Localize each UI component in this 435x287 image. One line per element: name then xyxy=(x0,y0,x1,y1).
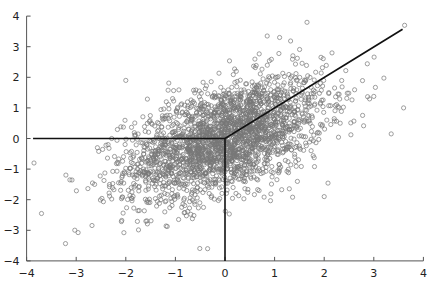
data-point xyxy=(237,194,241,198)
data-point xyxy=(163,210,167,214)
data-point xyxy=(134,143,138,147)
data-point xyxy=(344,69,348,73)
data-point xyxy=(187,206,191,210)
data-point xyxy=(217,71,221,75)
y-tick-label: 2 xyxy=(13,71,20,84)
data-point xyxy=(280,188,284,192)
data-point xyxy=(291,195,295,199)
data-point xyxy=(172,89,176,93)
data-point xyxy=(373,85,377,89)
data-point xyxy=(286,160,290,164)
data-point xyxy=(257,189,261,193)
data-point xyxy=(261,77,265,81)
data-point xyxy=(320,66,324,70)
data-point xyxy=(103,171,107,175)
data-point xyxy=(231,185,235,189)
data-point xyxy=(158,182,162,186)
data-point xyxy=(262,195,266,199)
data-point xyxy=(294,114,298,118)
data-point xyxy=(129,125,133,129)
data-point xyxy=(287,187,291,191)
x-tick-label: 0 xyxy=(222,267,229,280)
data-point xyxy=(130,190,134,194)
data-point xyxy=(111,169,115,173)
data-point xyxy=(295,56,299,60)
data-point xyxy=(341,105,345,109)
data-point xyxy=(317,137,321,141)
data-point xyxy=(403,23,407,27)
data-point xyxy=(299,164,303,168)
data-point xyxy=(115,169,119,173)
data-point xyxy=(336,135,340,139)
data-point xyxy=(121,211,125,215)
data-point xyxy=(136,228,140,232)
data-point xyxy=(330,51,334,55)
x-tick-label: 3 xyxy=(370,267,377,280)
data-point xyxy=(124,78,128,82)
data-point xyxy=(322,110,326,114)
data-point xyxy=(172,115,176,119)
data-point xyxy=(338,121,342,125)
data-point xyxy=(119,188,123,192)
data-point xyxy=(257,52,261,56)
data-point xyxy=(382,76,386,80)
data-point xyxy=(310,125,314,129)
data-point xyxy=(361,113,365,117)
data-point xyxy=(230,196,234,200)
scatter-chart: −4−3−2−101234 −4−3−2−101234 xyxy=(0,0,435,287)
data-point xyxy=(220,191,224,195)
data-point xyxy=(265,34,269,38)
data-point xyxy=(177,114,181,118)
data-point xyxy=(86,187,90,191)
data-point xyxy=(204,84,208,88)
data-point xyxy=(123,118,127,122)
data-point xyxy=(309,129,313,133)
data-point xyxy=(39,211,43,215)
data-point xyxy=(159,108,163,112)
y-tick-label: 0 xyxy=(13,133,20,146)
data-point xyxy=(333,109,337,113)
data-point xyxy=(149,219,153,223)
data-point xyxy=(185,100,189,104)
data-point xyxy=(156,129,160,133)
data-point xyxy=(270,164,274,168)
x-tick-label: 2 xyxy=(321,267,328,280)
data-point xyxy=(110,197,114,201)
data-point xyxy=(156,120,160,124)
x-axis-ticks: −4−3−2−101234 xyxy=(18,257,426,280)
data-point xyxy=(360,79,364,83)
y-tick-label: −4 xyxy=(3,255,19,268)
data-point xyxy=(206,247,210,251)
data-point xyxy=(277,51,281,55)
data-point xyxy=(322,195,326,199)
data-point xyxy=(201,80,205,84)
x-tick-label: 1 xyxy=(271,267,278,280)
data-point xyxy=(125,206,129,210)
data-point xyxy=(133,121,137,125)
data-point xyxy=(64,173,68,177)
data-point xyxy=(340,78,344,82)
data-point xyxy=(269,192,273,196)
data-point xyxy=(309,149,313,153)
data-point xyxy=(253,57,257,61)
data-point xyxy=(121,155,125,159)
data-point xyxy=(276,75,280,79)
data-point xyxy=(234,191,238,195)
data-point xyxy=(389,132,393,136)
data-point xyxy=(246,187,250,191)
data-point xyxy=(142,209,146,213)
data-point xyxy=(105,156,109,160)
x-tick-label: −1 xyxy=(167,267,183,280)
data-point xyxy=(315,84,319,88)
data-point xyxy=(321,105,325,109)
data-point xyxy=(121,125,125,129)
data-point xyxy=(305,20,309,24)
data-point xyxy=(294,72,298,76)
scatter-points xyxy=(32,20,407,251)
data-point xyxy=(198,246,202,250)
data-point xyxy=(167,107,171,111)
data-point xyxy=(265,63,269,67)
data-point xyxy=(258,72,262,76)
y-tick-label: 4 xyxy=(13,10,20,23)
data-point xyxy=(135,150,139,154)
